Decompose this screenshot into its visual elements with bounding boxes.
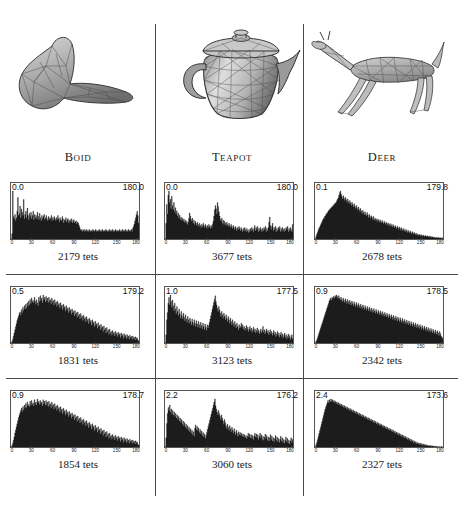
axis-tick-label: 30 [29, 448, 34, 453]
histogram-plot-area [314, 182, 444, 240]
axis-tick-label: 180 [436, 344, 444, 349]
axis-tick-label: 60 [204, 240, 209, 245]
histogram-min-angle-label: 0.5 [12, 287, 24, 296]
axis-tick-label: 120 [91, 448, 99, 453]
axis-tick-label: 90 [225, 448, 230, 453]
histogram-cell-deer-row1: 0.1179.803060901201501802678 tets [308, 180, 456, 276]
histogram-min-angle-label: 1.0 [166, 287, 178, 296]
histogram-min-angle-label: 0.1 [316, 183, 328, 192]
model-label-teapot: Teapot [158, 150, 306, 168]
axis-tick-label: 180 [286, 240, 294, 245]
axis-tick-label: 0 [315, 240, 318, 245]
histogram-x-axis: 0306090120150180 [10, 238, 138, 250]
axis-tick-label: 90 [71, 344, 76, 349]
axis-tick-label: 120 [395, 448, 403, 453]
axis-tick-label: 120 [395, 240, 403, 245]
axis-tick-label: 120 [395, 344, 403, 349]
axis-tick-label: 60 [204, 344, 209, 349]
axis-tick-label: 0 [11, 240, 14, 245]
histogram-x-axis: 0306090120150180 [314, 342, 442, 354]
histogram-x-axis: 0306090120150180 [164, 446, 292, 458]
axis-tick-label: 180 [286, 344, 294, 349]
axis-tick-label: 150 [267, 240, 275, 245]
histogram-cell-boid-row2: 0.5179.203060901201501801831 tets [4, 284, 152, 380]
histogram-plot-area [314, 286, 444, 344]
axis-tick-label: 150 [113, 448, 121, 453]
axis-tick-label: 0 [315, 344, 318, 349]
axis-tick-label: 90 [225, 240, 230, 245]
histogram-cell-teapot-row1: 0.0180.003060901201501803677 tets [158, 180, 306, 276]
axis-tick-label: 90 [225, 344, 230, 349]
model-label-boid: Boid [4, 150, 152, 168]
axis-tick-label: 30 [333, 344, 338, 349]
model-label-deer: Deer [308, 150, 456, 168]
histogram-min-angle-label: 0.9 [316, 287, 328, 296]
axis-tick-label: 90 [375, 240, 380, 245]
tet-count-caption: 1831 tets [4, 354, 152, 366]
histogram-max-angle-label: 179.8 [427, 183, 448, 192]
histogram-x-axis: 0306090120150180 [164, 342, 292, 354]
axis-tick-label: 30 [333, 448, 338, 453]
axis-tick-label: 60 [50, 448, 55, 453]
axis-tick-label: 30 [183, 448, 188, 453]
axis-tick-label: 30 [183, 240, 188, 245]
axis-tick-label: 0 [315, 448, 318, 453]
histogram-cell-teapot-row2: 1.0177.503060901201501803123 tets [158, 284, 306, 380]
axis-tick-label: 30 [183, 344, 188, 349]
histogram-max-angle-label: 177.5 [277, 287, 298, 296]
tet-count-caption: 3060 tets [158, 458, 306, 470]
tet-count-caption: 1854 tets [4, 458, 152, 470]
axis-tick-label: 150 [417, 448, 425, 453]
histogram-cell-deer-row3: 2.4173.603060901201501802327 tets [308, 388, 456, 484]
histogram-plot-area [10, 182, 140, 240]
histogram-max-angle-label: 176.2 [277, 391, 298, 400]
axis-tick-label: 150 [417, 240, 425, 245]
tet-count-caption: 3677 tets [158, 250, 306, 262]
axis-tick-label: 60 [204, 448, 209, 453]
histogram-cell-deer-row2: 0.9178.503060901201501802342 tets [308, 284, 456, 380]
axis-tick-label: 150 [267, 344, 275, 349]
axis-tick-label: 30 [29, 344, 34, 349]
axis-tick-label: 90 [71, 240, 76, 245]
histogram-cell-teapot-row3: 2.2176.203060901201501803060 tets [158, 388, 306, 484]
axis-tick-label: 90 [375, 344, 380, 349]
axis-tick-label: 0 [165, 344, 168, 349]
boid-mesh-thumbnail [4, 22, 152, 132]
histogram-cell-boid-row3: 0.9178.703060901201501801854 tets [4, 388, 152, 484]
histogram-min-angle-label: 0.9 [12, 391, 24, 400]
histogram-plot-area [314, 390, 444, 448]
histogram-max-angle-label: 173.6 [427, 391, 448, 400]
axis-tick-label: 120 [245, 448, 253, 453]
histogram-x-axis: 0306090120150180 [164, 238, 292, 250]
tet-count-caption: 2678 tets [308, 250, 456, 262]
histogram-min-angle-label: 2.4 [316, 391, 328, 400]
axis-tick-label: 150 [113, 344, 121, 349]
tet-count-caption: 3123 tets [158, 354, 306, 366]
histogram-max-angle-label: 178.5 [427, 287, 448, 296]
axis-tick-label: 60 [50, 240, 55, 245]
histogram-max-angle-label: 180.0 [277, 183, 298, 192]
histogram-plot-area [164, 286, 294, 344]
row-separator-2 [6, 378, 458, 379]
histogram-min-angle-label: 0.0 [166, 183, 178, 192]
histogram-min-angle-label: 2.2 [166, 391, 178, 400]
histogram-x-axis: 0306090120150180 [10, 446, 138, 458]
axis-tick-label: 30 [333, 240, 338, 245]
model-thumbnail-row [0, 22, 465, 148]
axis-tick-label: 180 [132, 240, 140, 245]
axis-tick-label: 120 [91, 344, 99, 349]
axis-tick-label: 0 [165, 240, 168, 245]
axis-tick-label: 150 [113, 240, 121, 245]
axis-tick-label: 150 [267, 448, 275, 453]
axis-tick-label: 120 [245, 240, 253, 245]
histogram-max-angle-label: 178.7 [123, 391, 144, 400]
figure-panel: Boid Teapot Deer 0.0180.0030609012015018… [0, 0, 465, 505]
axis-tick-label: 150 [417, 344, 425, 349]
tet-count-caption: 2342 tets [308, 354, 456, 366]
axis-tick-label: 180 [436, 448, 444, 453]
axis-tick-label: 90 [375, 448, 380, 453]
histogram-x-axis: 0306090120150180 [314, 238, 442, 250]
deer-mesh-thumbnail [308, 22, 456, 132]
histogram-cell-boid-row1: 0.0180.003060901201501802179 tets [4, 180, 152, 276]
axis-tick-label: 30 [29, 240, 34, 245]
